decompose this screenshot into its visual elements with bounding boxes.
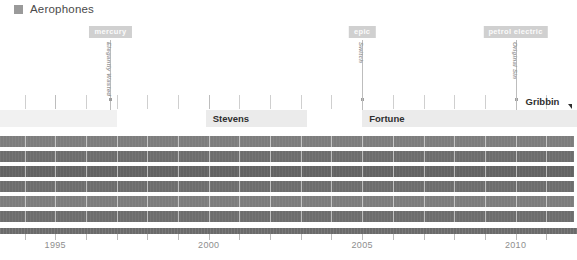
axis-tick <box>117 234 118 240</box>
band-label: Gribbin <box>526 96 560 107</box>
band-label: Stevens <box>206 113 249 124</box>
chart-tick <box>454 95 455 109</box>
gridline <box>331 136 332 222</box>
gridline <box>239 136 240 222</box>
axis-tick <box>546 234 547 240</box>
chart-tick <box>301 95 302 109</box>
chart-tick <box>147 95 148 109</box>
marker-track-title-2: Original Sin <box>512 42 519 79</box>
chart-tick <box>117 95 118 109</box>
legend-label: Aerophones <box>30 3 94 15</box>
chart-tick <box>55 95 56 109</box>
square-marker-icon <box>14 5 23 14</box>
chart-tick <box>86 95 87 109</box>
gridline <box>147 136 148 222</box>
gridline <box>209 136 210 222</box>
legend: Aerophones <box>14 3 94 15</box>
gridline <box>86 136 87 222</box>
gridline <box>362 136 363 222</box>
gridline <box>393 136 394 222</box>
chart-tick <box>331 95 332 109</box>
gridline <box>454 136 455 222</box>
axis-tick <box>485 234 486 240</box>
axis-tick <box>393 234 394 240</box>
axis-tick <box>424 234 425 240</box>
gridline <box>485 136 486 222</box>
marker-track-title-0: Elegantly Wasted <box>106 42 113 96</box>
axis-tick <box>454 234 455 240</box>
timeline-chart: Aerophones mercuryElegantly WastedepicSw… <box>0 0 577 260</box>
gridline <box>516 136 517 222</box>
chart-tick <box>485 95 486 109</box>
gridline <box>55 136 56 222</box>
label-band[interactable]: Fortune <box>362 110 515 127</box>
gridline <box>117 136 118 222</box>
gridline <box>546 136 547 222</box>
axis-label-2010: 2010 <box>505 240 526 250</box>
marker-track-title-1: Switch <box>358 42 365 63</box>
gridline <box>25 136 26 222</box>
axis-tick <box>86 234 87 240</box>
chart-tick <box>516 95 517 109</box>
marker-pill-1[interactable]: epic <box>349 26 375 38</box>
axis-tick <box>301 234 302 240</box>
axis-tick <box>270 234 271 240</box>
label-band[interactable] <box>516 110 577 127</box>
axis-tick <box>239 234 240 240</box>
axis-tick <box>331 234 332 240</box>
chart-tick <box>209 95 210 109</box>
axis-label-2000: 2000 <box>198 240 219 250</box>
band-label: Fortune <box>362 113 404 124</box>
axis-label-2005: 2005 <box>352 240 373 250</box>
axis-tick <box>147 234 148 240</box>
gridline <box>178 136 179 222</box>
chart-tick <box>270 95 271 109</box>
axis-label-1995: 1995 <box>45 240 66 250</box>
axis-tick <box>178 234 179 240</box>
chart-tick <box>239 95 240 109</box>
marker-pill-2[interactable]: petrol electric <box>483 26 547 38</box>
band-label-pointer-icon <box>568 104 572 109</box>
gridline <box>424 136 425 222</box>
axis-tick <box>25 234 26 240</box>
chart-tick <box>424 95 425 109</box>
gridline <box>270 136 271 222</box>
chart-tick <box>393 95 394 109</box>
chart-tick <box>25 95 26 109</box>
marker-pill-0[interactable]: mercury <box>89 26 131 38</box>
chart-tick <box>362 95 363 109</box>
gridline <box>301 136 302 222</box>
label-band[interactable] <box>0 110 117 127</box>
marker-dot-0 <box>109 98 112 101</box>
label-band[interactable]: Stevens <box>206 110 307 127</box>
chart-tick <box>178 95 179 109</box>
